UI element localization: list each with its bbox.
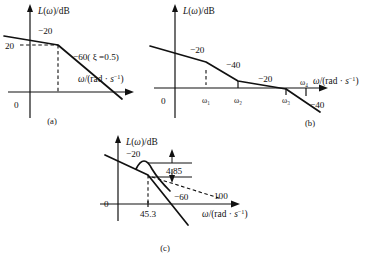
peak-value-label-c: 4.85: [166, 166, 182, 176]
caption-a: (a): [47, 116, 57, 126]
x-axis-label-a: ω/(rad · s−1): [78, 73, 124, 85]
slope-label-minus40-first-b: −40: [226, 60, 241, 70]
y-axis-arrow-a: [27, 4, 33, 12]
slope-label-minus60-c: −60: [174, 192, 189, 202]
x-axis-label-c: ω/(rad · s−1): [202, 208, 248, 220]
bode-plot-c: 4.85 −20 −60 100 0 45.3 ω/(rad · s−1) L(…: [60, 125, 310, 256]
x-axis-paren-b: ): [355, 76, 358, 87]
y-lab-rest-b: )/dB: [198, 6, 215, 17]
x-axis-units-a: /(rad ·: [85, 74, 111, 85]
y-lab-rest-c: )/dB: [141, 137, 158, 148]
slope-label-minus20-first-b: −20: [190, 45, 205, 55]
x-tick-label-w1-b: ω₁: [202, 96, 210, 105]
x-tick-label-corner-c: 45.3: [140, 209, 156, 219]
origin-label-b: 0: [161, 96, 166, 106]
x-axis-paren-c: ): [244, 209, 247, 220]
x-axis-exp-b: −1: [349, 75, 356, 82]
bode-plot-b: 0 ω₁ ω₂ ω₃ ω₄ −20 −40 −20 −40 ω/(rad · s…: [120, 0, 365, 130]
x-axis-units-b: /(rad ·: [320, 76, 346, 87]
slope-label-minus20-c: −20: [126, 149, 141, 159]
x-tick-label-w2-b: ω₂: [234, 96, 242, 105]
slope-label-minus20-a: −20: [38, 26, 53, 36]
x-tick-label-w4-b: ω₄: [300, 78, 308, 87]
x-axis-label-b: ω/(rad · s−1): [313, 75, 359, 87]
slope-label-minus40-second-b: −40: [310, 100, 325, 110]
x-axis-exp-c: −1: [238, 208, 245, 215]
y-tick-label-20-a: 20: [5, 41, 15, 51]
x-axis-units-c: /(rad ·: [209, 209, 235, 220]
y-axis-label-c: L(ω)/dB: [125, 137, 158, 148]
resonant-peak-curve-c: [136, 161, 170, 191]
bode-plot-c-svg: 4.85 −20 −60 100 0 45.3 ω/(rad · s−1) L(…: [60, 125, 310, 256]
caption-c: (c): [160, 243, 170, 253]
x-tick-label-w3-b: ω₃: [282, 96, 290, 105]
y-axis-label-b: L(ω)/dB: [182, 6, 215, 17]
y-axis-label-a: L(ω)/dB: [37, 6, 70, 17]
y-axis-arrow-c: [115, 135, 121, 143]
slope-label-100-c: 100: [214, 191, 228, 201]
y-lab-rest-a: )/dB: [53, 6, 70, 17]
peak-arrow-lower-head-c: [169, 175, 175, 183]
slope-label-minus60-a: −60( ξ =0.5): [73, 52, 119, 62]
origin-label-c: 0: [104, 199, 109, 209]
x-axis-arrow-c: [231, 201, 240, 208]
peak-arrow-upper-head-c: [169, 149, 175, 157]
origin-label-a: 0: [14, 100, 19, 110]
y-axis-arrow-b: [172, 4, 178, 12]
slope-label-minus20-second-b: −20: [258, 74, 273, 84]
bode-plot-b-svg: 0 ω₁ ω₂ ω₃ ω₄ −20 −40 −20 −40 ω/(rad · s…: [120, 0, 365, 130]
